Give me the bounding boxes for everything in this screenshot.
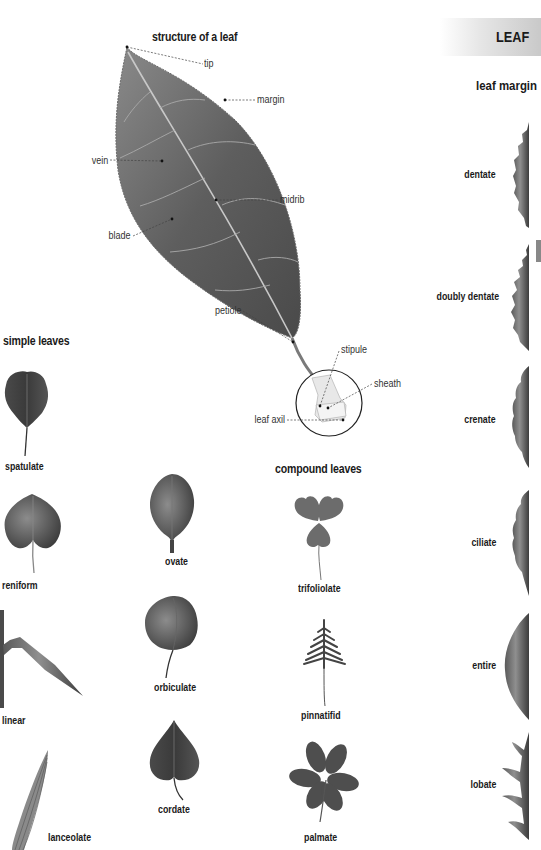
margin-label-lobate: lobate xyxy=(470,779,496,790)
margin-label-doubly-dentate: doubly dentate xyxy=(436,291,499,302)
margin-label-entire: entire xyxy=(472,660,496,671)
margin-label-crenate: crenate xyxy=(465,414,496,425)
margin-label-ciliate: ciliate xyxy=(471,537,496,548)
margin-label-dentate: dentate xyxy=(465,169,496,180)
leaf-margin-illustrations xyxy=(0,0,541,850)
